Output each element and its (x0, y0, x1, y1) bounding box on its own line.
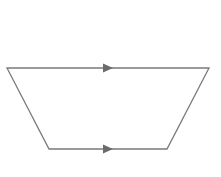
trapezoid-diagram (0, 0, 221, 177)
parallel-arrow-bottom-icon (103, 145, 113, 154)
trapezoid-shape (7, 68, 209, 149)
diagram-canvas (0, 0, 221, 177)
parallel-arrow-top-icon (103, 64, 113, 73)
